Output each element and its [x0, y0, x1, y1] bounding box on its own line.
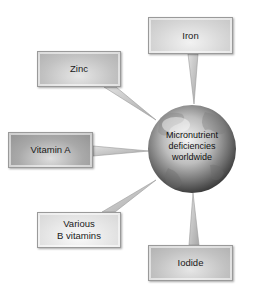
node-zinc: Zinc — [37, 51, 121, 87]
node-vitamin-a-label: Vitamin A — [31, 144, 71, 156]
node-iron: Iron — [148, 17, 233, 54]
node-b-vitamins: Various B vitamins — [37, 212, 121, 248]
connector-vitamin-a — [93, 146, 149, 156]
connector-b-vitamins — [102, 180, 156, 212]
center-label-line-2: deficiencies — [148, 141, 236, 152]
node-iodide-label: Iodide — [178, 257, 204, 269]
node-b-vitamins-line-1: Various — [57, 218, 101, 230]
center-label-line-1: Micronutrient — [148, 130, 236, 141]
center-label-line-3: worldwide — [148, 152, 236, 163]
center-label: Micronutrient deficiencies worldwide — [148, 130, 236, 163]
node-vitamin-a: Vitamin A — [8, 132, 93, 168]
connector-iodide — [189, 193, 199, 245]
node-zinc-label: Zinc — [70, 63, 88, 75]
node-b-vitamins-line-2: B vitamins — [57, 230, 101, 242]
node-b-vitamins-label: Various B vitamins — [57, 218, 101, 242]
node-iron-label: Iron — [182, 30, 198, 42]
node-iodide: Iodide — [148, 245, 233, 281]
connector-iron — [188, 54, 198, 104]
connector-zinc — [104, 87, 156, 120]
